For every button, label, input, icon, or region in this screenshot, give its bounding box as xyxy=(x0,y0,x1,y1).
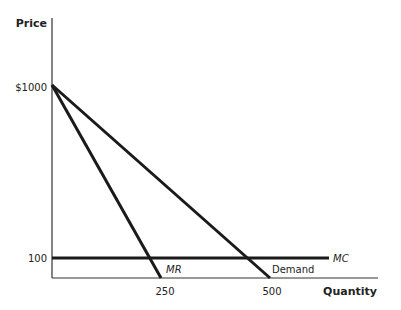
y-tick-1000: $1000 xyxy=(15,82,47,93)
mr-line xyxy=(52,85,161,278)
mc-label: MC xyxy=(333,253,349,264)
mr-label: MR xyxy=(166,264,182,275)
x-axis-title: Quantity xyxy=(323,285,377,298)
y-axis-title: Price xyxy=(16,17,47,30)
y-tick-100: 100 xyxy=(28,253,47,264)
x-tick-500: 500 xyxy=(262,286,281,297)
x-tick-250: 250 xyxy=(155,286,174,297)
demand-label: Demand xyxy=(272,264,314,275)
demand-line xyxy=(52,85,270,278)
monopoly-chart: Price Quantity $1000 100 250 500 MR MC D… xyxy=(0,0,401,310)
